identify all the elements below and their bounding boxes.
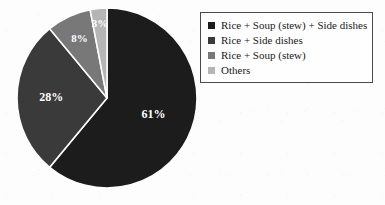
legend-item-others[interactable]: Others [208, 63, 366, 78]
legend-swatch-icon [208, 52, 215, 59]
legend-swatch-icon [208, 37, 215, 44]
pie-slice-data-label: 61% [142, 107, 166, 121]
pie-slice-data-label: 28% [39, 90, 63, 104]
pie-slice-data-label: 8% [71, 32, 88, 44]
legend-item-rice-soup-side-dishes[interactable]: Rice + Soup (stew) + Side dishes [208, 18, 366, 33]
legend-item-label: Others [221, 65, 250, 76]
legend: Rice + Soup (stew) + Side dishes Rice + … [200, 12, 373, 83]
pie-chart-svg: 61%28%8%3% [0, 0, 205, 205]
legend-item-label: Rice + Soup (stew) [221, 50, 306, 61]
legend-swatch-icon [208, 22, 215, 29]
pie-chart: 61%28%8%3% [0, 0, 205, 205]
legend-item-label: Rice + Side dishes [221, 35, 303, 46]
legend-item-label: Rice + Soup (stew) + Side dishes [221, 20, 367, 31]
pie-chart-figure: 61%28%8%3% Rice + Soup (stew) + Side dis… [0, 0, 385, 205]
legend-swatch-icon [208, 67, 215, 74]
pie-slice-data-label: 3% [92, 17, 109, 29]
legend-item-rice-side-dishes[interactable]: Rice + Side dishes [208, 33, 366, 48]
legend-item-rice-soup[interactable]: Rice + Soup (stew) [208, 48, 366, 63]
